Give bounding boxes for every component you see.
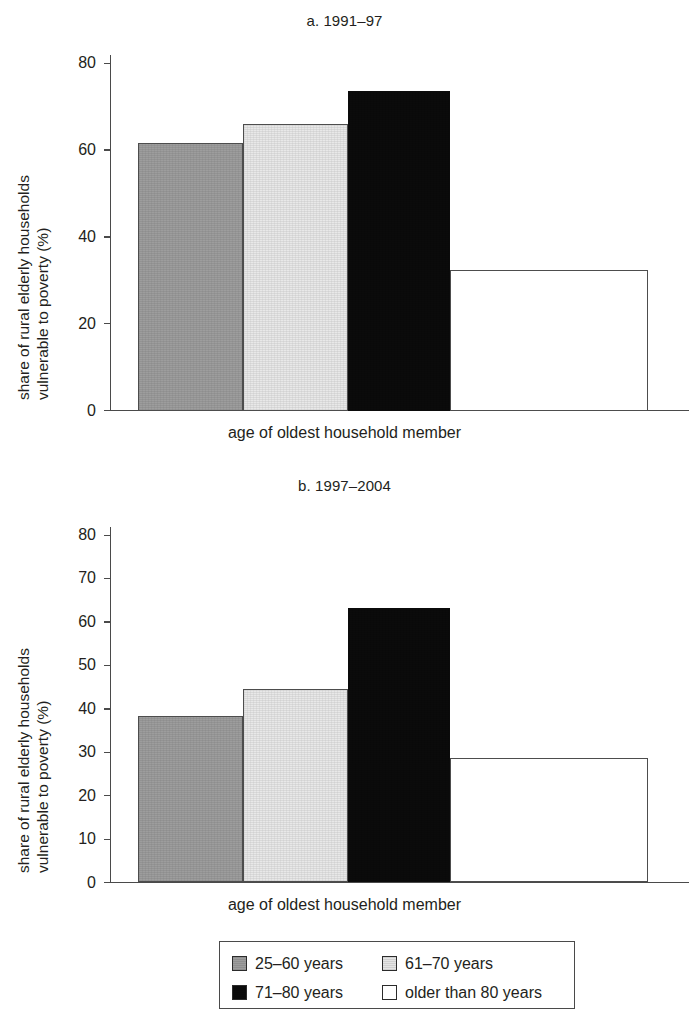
- panel-b-tick-label-60: 60: [50, 614, 96, 630]
- panel-b-plot-area: 80 70 60 50 40 30 20 10 0: [0, 465, 689, 930]
- panel-a-bar-61-70: [243, 124, 348, 411]
- legend-swatch-25-60-years: [232, 956, 247, 971]
- panel-a-y-axis: [110, 55, 111, 411]
- panel-a-tick-20: [104, 323, 111, 324]
- panel-a-tick-40: [104, 236, 111, 237]
- panel-b-y-axis: [110, 527, 111, 882]
- legend-item-71-80-years: 71–80 years: [232, 984, 382, 1002]
- legend-label-older-than-80-years: older than 80 years: [405, 984, 542, 1002]
- panel-a-bar-25-60: [138, 143, 243, 411]
- panel-a-tick-label-60: 60: [50, 142, 96, 158]
- panel-b-tick-10: [104, 839, 111, 840]
- panel-b-tick-label-10: 10: [50, 831, 96, 847]
- panel-b-tick-40: [104, 708, 111, 709]
- panel-a-plot-area: 80 60 40 20 0: [0, 0, 689, 460]
- panel-b-tick-60: [104, 621, 111, 622]
- panel-b-bar-older-than-80: [450, 758, 648, 882]
- panel-b-tick-label-0: 0: [50, 875, 96, 891]
- panel-a-bar-71-80: [348, 91, 450, 411]
- panel-b-tick-label-50: 50: [50, 657, 96, 673]
- panel-b-tick-20: [104, 795, 111, 796]
- legend-item-25-60-years: 25–60 years: [232, 955, 382, 973]
- panel-b-tick-label-20: 20: [50, 788, 96, 804]
- panel-b-bar-71-80: [348, 608, 450, 882]
- panel-b-bar-25-60: [138, 716, 243, 882]
- legend-item-older-than-80-years: older than 80 years: [382, 984, 542, 1002]
- panel-a-tick-60: [104, 149, 111, 150]
- panel-b-x-axis-title: age of oldest household member: [0, 896, 689, 914]
- panel-a-tick-0: [104, 410, 111, 411]
- panel-b-tick-50: [104, 665, 111, 666]
- legend-swatch-61-70-years: [382, 956, 397, 971]
- panel-b-tick-label-80: 80: [50, 527, 96, 543]
- panel-b-tick-label-70: 70: [50, 570, 96, 586]
- panel-b-tick-label-30: 30: [50, 744, 96, 760]
- panel-a-tick-label-40: 40: [50, 229, 96, 245]
- panel-b-tick-30: [104, 752, 111, 753]
- panel-b-tick-70: [104, 578, 111, 579]
- panel-b-tick-80: [104, 535, 111, 536]
- legend: 25–60 years 61–70 years 71–80 years olde…: [219, 941, 575, 1009]
- panel-b-x-axis: [110, 882, 689, 883]
- legend-swatch-71-80-years: [232, 985, 247, 1000]
- panel-a-bar-older-than-80: [450, 270, 648, 411]
- panel-a-tick-label-20: 20: [50, 316, 96, 332]
- legend-label-25-60-years: 25–60 years: [255, 955, 343, 973]
- panel-b-tick-0: [104, 882, 111, 883]
- panel-a: a. 1991–97 share of rural elderly househ…: [0, 0, 689, 460]
- legend-swatch-older-than-80-years: [382, 985, 397, 1000]
- legend-item-61-70-years: 61–70 years: [382, 955, 542, 973]
- panel-a-tick-80: [104, 63, 111, 64]
- panel-b: b. 1997–2004 share of rural elderly hous…: [0, 465, 689, 930]
- panel-a-tick-label-0: 0: [50, 403, 96, 419]
- legend-items: 25–60 years 61–70 years 71–80 years olde…: [232, 949, 542, 1007]
- legend-label-71-80-years: 71–80 years: [255, 984, 343, 1002]
- panel-a-tick-label-80: 80: [50, 55, 96, 71]
- panel-b-bar-61-70: [243, 689, 348, 882]
- legend-label-61-70-years: 61–70 years: [405, 955, 493, 973]
- panel-a-x-axis-title: age of oldest household member: [0, 424, 689, 442]
- panel-b-tick-label-40: 40: [50, 701, 96, 717]
